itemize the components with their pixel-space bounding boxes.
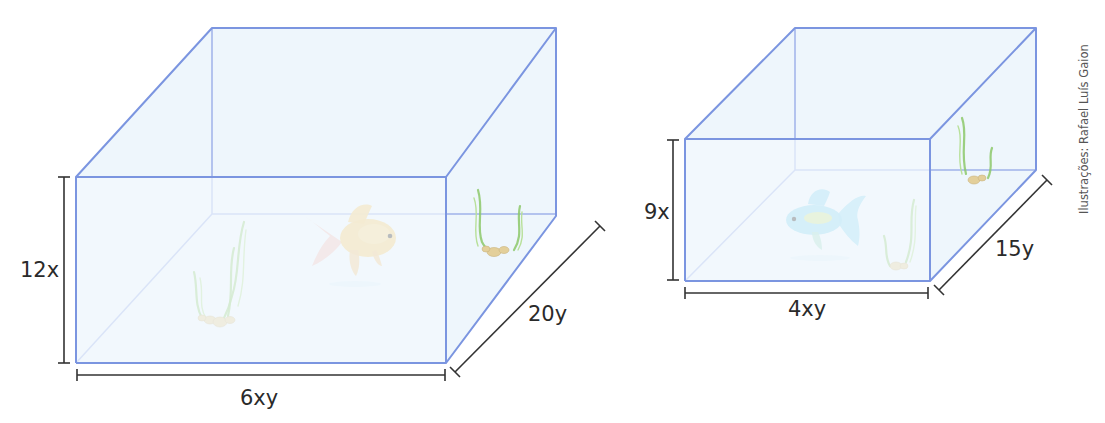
- small-front-glass: [685, 139, 930, 281]
- aquarium-diagram: 12x 6xy 20y: [0, 0, 1105, 423]
- large-width-label: 6xy: [240, 386, 278, 410]
- large-height-dimension: 12x: [20, 177, 70, 363]
- large-depth-label: 20y: [528, 302, 567, 326]
- large-front-glass: [76, 177, 446, 363]
- small-height-label: 9x: [644, 200, 670, 224]
- small-width-label: 4xy: [788, 297, 826, 321]
- large-aquarium: 12x 6xy 20y: [20, 28, 605, 410]
- large-height-label: 12x: [20, 258, 59, 282]
- large-width-dimension: 6xy: [77, 369, 445, 410]
- small-depth-label: 15y: [995, 237, 1034, 261]
- small-width-dimension: 4xy: [685, 287, 928, 321]
- illustration-credit: Ilustrações: Rafael Luís Gaion: [1077, 44, 1091, 214]
- small-aquarium: 9x 4xy 15y: [644, 28, 1052, 321]
- small-height-dimension: 9x: [644, 140, 679, 280]
